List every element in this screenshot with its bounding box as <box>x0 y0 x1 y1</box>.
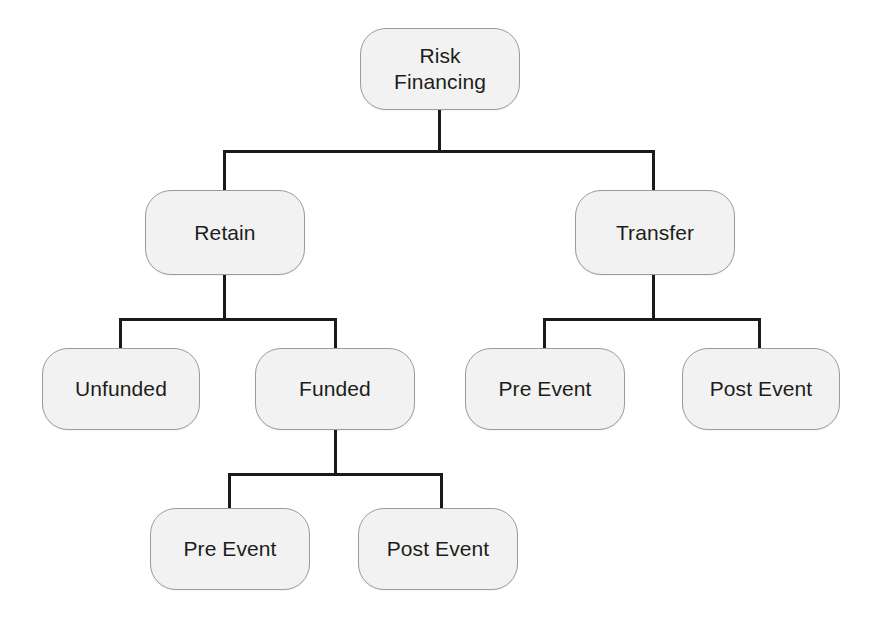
connector-funded-bus <box>228 473 443 476</box>
node-risk-financing[interactable]: Risk Financing <box>360 28 520 110</box>
connector-root-stem <box>438 110 441 152</box>
connector-root-to-retain <box>223 150 226 192</box>
connector-transfer-stem <box>652 275 655 320</box>
node-unfunded-label: Unfunded <box>67 376 175 402</box>
node-funded-post-event[interactable]: Post Event <box>358 508 518 590</box>
node-funded-pre-event-label: Pre Event <box>175 536 284 562</box>
node-funded-pre-event[interactable]: Pre Event <box>150 508 310 590</box>
connector-retain-stem <box>223 275 226 320</box>
connector-root-bus <box>223 150 655 153</box>
node-transfer-post-event[interactable]: Post Event <box>682 348 840 430</box>
node-funded[interactable]: Funded <box>255 348 415 430</box>
connector-funded-stem <box>334 430 337 475</box>
node-funded-post-event-label: Post Event <box>379 536 498 562</box>
connector-funded-to-pre-event <box>228 473 231 510</box>
connector-transfer-bus <box>543 318 761 321</box>
node-transfer-post-event-label: Post Event <box>702 376 821 402</box>
node-risk-financing-label: Risk Financing <box>386 43 494 94</box>
connector-retain-to-funded <box>334 318 337 350</box>
node-transfer[interactable]: Transfer <box>575 190 735 275</box>
connector-retain-to-unfunded <box>119 318 122 350</box>
node-transfer-label: Transfer <box>608 220 702 246</box>
risk-financing-diagram: Risk Financing Retain Transfer Unfunded … <box>0 0 882 629</box>
connector-funded-to-post-event <box>440 473 443 510</box>
node-retain[interactable]: Retain <box>145 190 305 275</box>
connector-transfer-to-pre-event <box>543 318 546 350</box>
node-transfer-pre-event-label: Pre Event <box>490 376 599 402</box>
node-unfunded[interactable]: Unfunded <box>42 348 200 430</box>
node-retain-label: Retain <box>186 220 263 246</box>
connector-retain-bus <box>119 318 337 321</box>
node-transfer-pre-event[interactable]: Pre Event <box>465 348 625 430</box>
connector-transfer-to-post-event <box>758 318 761 350</box>
node-funded-label: Funded <box>291 376 379 402</box>
connector-root-to-transfer <box>652 150 655 192</box>
